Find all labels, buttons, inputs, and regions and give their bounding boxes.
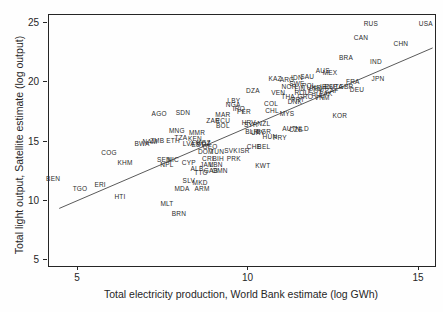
country-code-marker: MYS: [280, 111, 295, 118]
x-axis-title: Total electricity production, World Bank…: [48, 288, 434, 300]
country-code-marker: KHM: [118, 160, 133, 167]
country-code-marker: ISR: [238, 148, 249, 155]
country-code-marker: TGO: [73, 186, 88, 193]
country-code-marker: BOL: [216, 123, 230, 130]
country-code-marker: KWT: [255, 163, 270, 170]
country-code-marker: PRY: [273, 135, 287, 142]
country-code-marker: MLT: [160, 201, 173, 208]
y-tick-mark: [43, 141, 47, 142]
country-code-marker: HTI: [114, 194, 125, 201]
country-code-marker: AGO: [152, 111, 167, 118]
y-tick-mark: [43, 81, 47, 82]
x-tick-label: 5: [74, 272, 80, 283]
country-code-marker: COG: [101, 150, 116, 157]
country-code-marker: RUS: [364, 21, 378, 28]
country-code-marker: ZMB: [150, 138, 164, 145]
x-tick-label: 15: [412, 272, 423, 283]
country-code-marker: DZA: [246, 88, 260, 95]
country-code-marker: BEN: [46, 176, 60, 183]
country-code-marker: NIC: [167, 157, 179, 164]
country-code-marker: KAZ: [268, 76, 281, 83]
country-code-marker: ROU: [294, 90, 309, 97]
country-code-marker: THA: [281, 94, 295, 101]
country-code-marker: ERI: [94, 182, 105, 189]
country-code-marker: MDA: [174, 186, 189, 193]
y-tick-mark: [43, 22, 47, 23]
y-tick-mark: [43, 200, 47, 201]
x-tick-mark: [247, 266, 248, 270]
country-code-marker: PRK: [227, 156, 241, 163]
country-code-marker: SDN: [176, 110, 190, 117]
country-code-marker: VNM: [315, 95, 330, 102]
country-code-marker: CHL: [265, 108, 279, 115]
x-tick-mark: [418, 266, 419, 270]
y-tick-label: 20: [28, 76, 39, 87]
country-code-marker: ALB: [191, 166, 204, 173]
x-tick-label: 10: [242, 272, 253, 283]
country-code-marker: MEX: [323, 70, 338, 77]
country-code-marker: NZL: [257, 121, 270, 128]
country-code-marker: CHN: [394, 41, 409, 48]
y-axis-title: Total light output, Satellite estimate (…: [13, 25, 25, 265]
country-code-marker: CAN: [354, 35, 368, 42]
country-code-marker: MNG: [169, 128, 185, 135]
country-code-marker: BEL: [257, 144, 270, 151]
country-code-marker: JPN: [372, 76, 385, 83]
country-code-marker: USA: [419, 21, 433, 28]
country-code-marker: BRN: [172, 211, 186, 218]
country-code-marker: SVK: [224, 148, 238, 155]
country-code-marker: CYP: [182, 160, 196, 167]
country-code-marker: HRV: [242, 120, 256, 127]
country-code-marker: KOR: [333, 113, 348, 120]
y-tick-label: 25: [28, 17, 39, 28]
fit-line: [49, 15, 435, 266]
country-code-marker: MOZ: [196, 141, 211, 148]
y-tick-label: 5: [33, 253, 39, 264]
country-code-marker: NLD: [295, 126, 309, 133]
country-code-marker: IND: [370, 59, 382, 66]
plot-area: USARUSCANCHNBRAINDJPNFRADEUGBRITAESPKORA…: [48, 14, 436, 267]
country-code-marker: IRQ: [233, 106, 245, 113]
y-tick-label: 15: [28, 135, 39, 146]
country-code-marker: OMN: [212, 168, 228, 175]
y-tick-mark: [43, 259, 47, 260]
country-code-marker: ARM: [195, 186, 210, 193]
y-tick-label: 10: [28, 194, 39, 205]
country-code-marker: BRA: [339, 55, 353, 62]
scatter-figure: Total light output, Satellite estimate (…: [0, 0, 443, 312]
x-tick-mark: [77, 266, 78, 270]
